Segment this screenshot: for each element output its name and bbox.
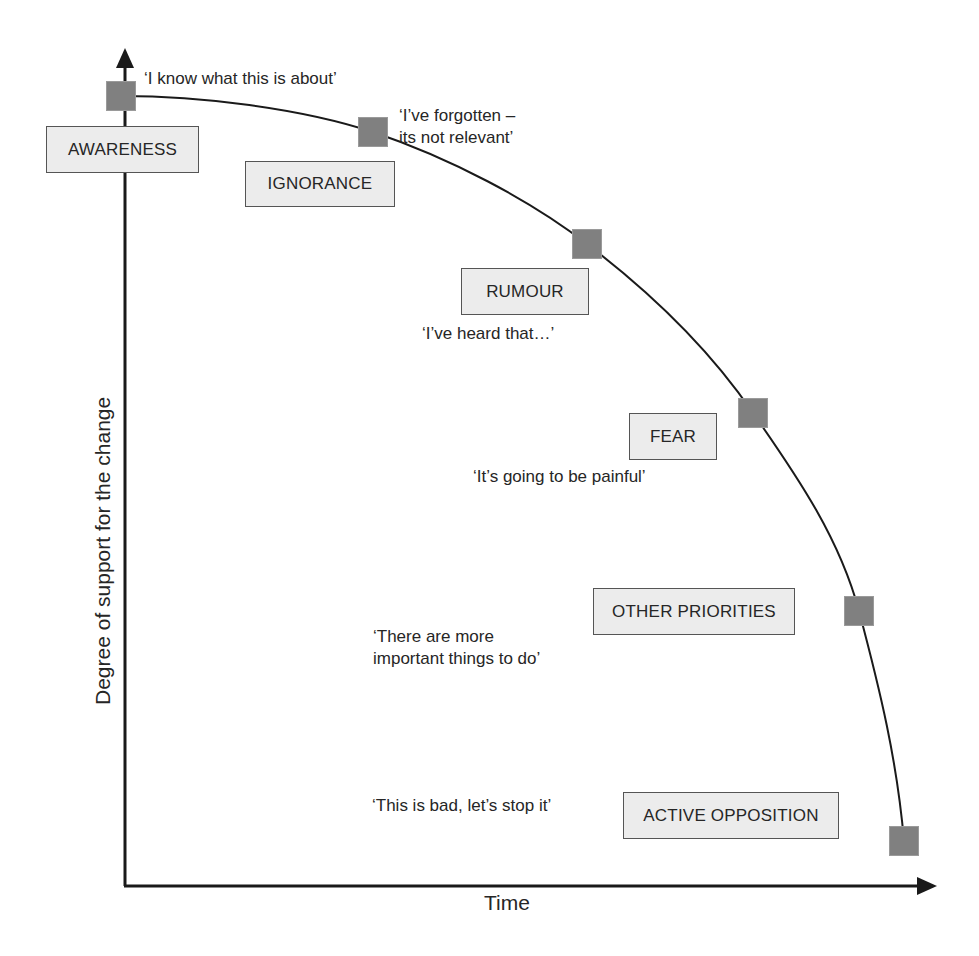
stage-box-ignorance: IGNORANCE (245, 161, 395, 207)
quote-ignorance: ‘I’ve forgotten – its not relevant’ (399, 105, 515, 149)
stage-marker-rumour (572, 229, 602, 259)
stage-marker-ignorance (358, 117, 388, 147)
y-axis-arrow-icon (116, 48, 134, 68)
stage-box-other-priorities: OTHER PRIORITIES (593, 588, 795, 635)
stage-box-fear: FEAR (629, 413, 717, 460)
quote-active-opposition: ‘This is bad, let’s stop it’ (372, 795, 551, 817)
stage-box-active-opposition: ACTIVE OPPOSITION (623, 792, 839, 839)
stage-marker-awareness (106, 81, 136, 111)
stage-box-awareness: AWARENESS (46, 126, 199, 173)
stage-marker-active-opposition (889, 826, 919, 856)
stage-marker-other-priorities (844, 596, 874, 626)
y-axis-label: Degree of support for the change (91, 397, 115, 705)
quote-awareness: ‘I know what this is about’ (144, 68, 337, 90)
x-axis-arrow-icon (917, 877, 937, 895)
quote-rumour: ‘I’ve heard that…’ (422, 323, 554, 345)
quote-fear: ‘It’s going to be painful’ (473, 466, 646, 488)
quote-other-priorities: ‘There are more important things to do’ (373, 626, 540, 670)
stage-marker-fear (738, 398, 768, 428)
stage-box-rumour: RUMOUR (461, 268, 589, 315)
x-axis-label: Time (484, 891, 530, 915)
